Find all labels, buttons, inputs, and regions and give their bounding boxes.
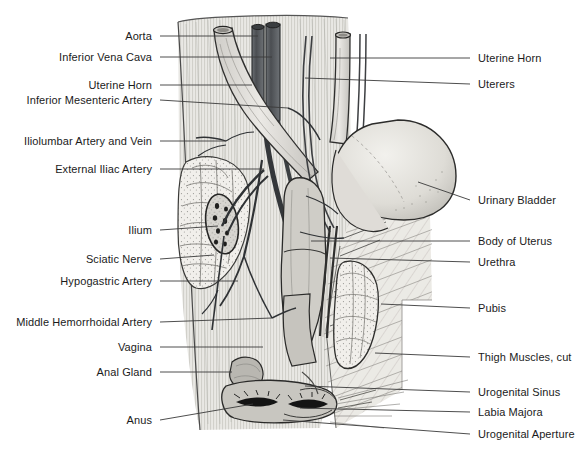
label-thigh-muscles-cut: Thigh Muscles, cut (478, 351, 572, 363)
label-iliolumbar-artery-and-vein: Iliolumbar Artery and Vein (24, 135, 152, 147)
label-urogenital-aperture: Urogenital Aperture (478, 428, 575, 440)
label-uterine-horn-right: Uterine Horn (478, 52, 542, 64)
label-sciatic-nerve: Sciatic Nerve (86, 253, 152, 265)
label-urinary-bladder: Urinary Bladder (478, 194, 556, 206)
label-external-iliac-artery: External Iliac Artery (55, 163, 152, 175)
label-body-of-uterus: Body of Uterus (478, 235, 552, 247)
urinary-bladder-body (332, 120, 456, 231)
label-urethra: Urethra (478, 256, 515, 268)
label-ilium: Ilium (128, 224, 152, 236)
label-inferior-vena-cava: Inferior Vena Cava (59, 51, 152, 63)
label-uterine-horn-left: Uterine Horn (88, 79, 152, 91)
label-hypogastric-artery: Hypogastric Artery (60, 275, 152, 287)
label-labia-majora: Labia Majora (478, 406, 543, 418)
label-inferior-mesenteric-artery: Inferior Mesenteric Artery (27, 94, 152, 106)
label-uterers: Uterers (478, 78, 515, 90)
label-aorta: Aorta (125, 30, 152, 42)
label-pubis: Pubis (478, 302, 506, 314)
label-anal-gland: Anal Gland (97, 366, 152, 378)
figure-canvas: Aorta Inferior Vena Cava Uterine Horn In… (0, 0, 586, 464)
label-middle-hemorrhoidal-artery: Middle Hemorrhoidal Artery (16, 316, 152, 328)
label-anus: Anus (127, 414, 152, 426)
label-urogenital-sinus: Urogenital Sinus (478, 386, 560, 398)
label-vagina: Vagina (118, 341, 152, 353)
